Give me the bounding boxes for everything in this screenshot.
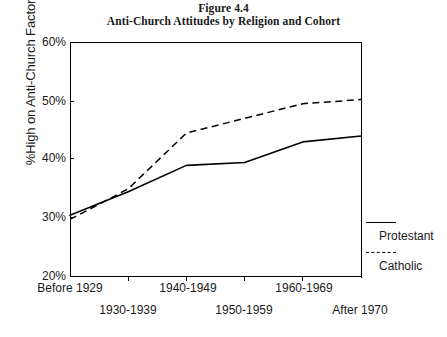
x-tick-label-after-1970: After 1970 <box>312 304 408 317</box>
legend-label: Protestant <box>379 230 434 243</box>
y-tick-label: 50% <box>26 95 66 107</box>
plot-area <box>70 42 362 277</box>
y-tick-60: 60% <box>22 36 66 48</box>
x-tick-mark-3 <box>244 277 245 281</box>
y-tick-label: 40% <box>26 152 66 164</box>
x-tick-label-before-1929: Before 1929 <box>22 282 118 295</box>
x-tick-label-1960-1969: 1960-1969 <box>256 282 352 295</box>
y-tick-mark-30 <box>70 217 74 218</box>
plot-right-border <box>361 42 362 278</box>
figure-number: Figure 4.4 <box>0 2 447 15</box>
y-tick-mark-40 <box>70 158 74 159</box>
x-tick-label-1930-1939: 1930-1939 <box>80 304 176 317</box>
plot-top-border <box>70 42 362 43</box>
legend-label: Catholic <box>379 260 422 273</box>
legend-line-dashed-icon <box>366 252 396 253</box>
y-tick-50: 50% <box>22 95 66 107</box>
legend-item-protestant: Protestant <box>366 219 447 249</box>
y-tick-30: 30% <box>22 211 66 223</box>
legend: Protestant Catholic <box>366 219 447 279</box>
y-tick-40: 40% <box>22 152 66 164</box>
legend-line-solid-icon <box>366 222 396 223</box>
y-tick-label: 60% <box>26 36 66 48</box>
y-tick-mark-50 <box>70 101 74 102</box>
legend-item-catholic: Catholic <box>366 249 447 279</box>
y-tick-label: 30% <box>26 211 66 223</box>
chart-page: Figure 4.4 Anti-Church Attitudes by Reli… <box>0 0 447 337</box>
x-tick-mark-1 <box>128 277 129 281</box>
x-tick-label-1950-1959: 1950-1959 <box>196 304 292 317</box>
figure-caption: Anti-Church Attitudes by Religion and Co… <box>0 15 447 28</box>
chart-title: Figure 4.4 Anti-Church Attitudes by Reli… <box>0 2 447 28</box>
x-tick-label-1940-1949: 1940-1949 <box>140 282 236 295</box>
